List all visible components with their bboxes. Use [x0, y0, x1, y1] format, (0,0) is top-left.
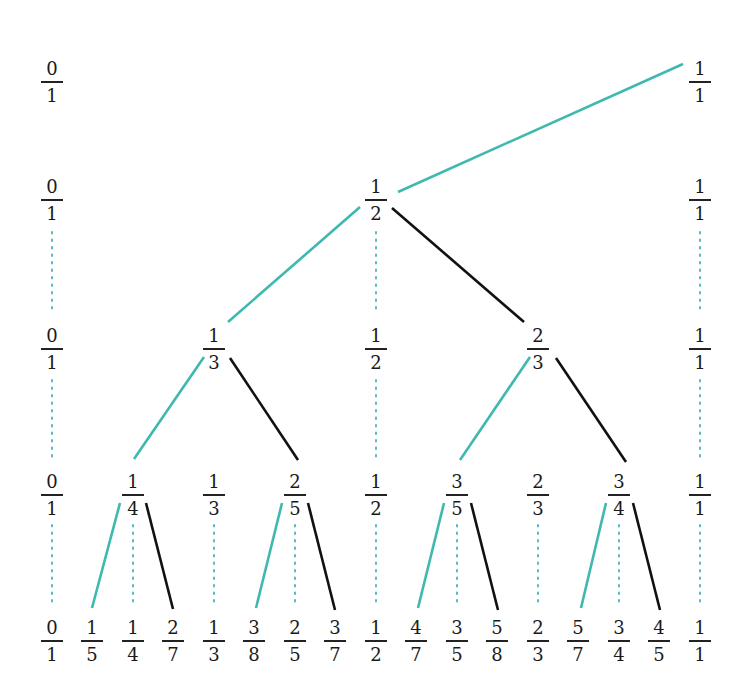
fraction-node: 11	[685, 619, 715, 664]
fraction-node: 14	[118, 473, 148, 518]
fraction-node: 38	[239, 619, 269, 664]
numerator: 1	[361, 327, 391, 348]
fraction-node: 37	[320, 619, 350, 664]
denominator: 5	[644, 642, 674, 664]
numerator: 4	[644, 619, 674, 640]
fraction-node: 13	[199, 327, 229, 372]
numerator: 0	[37, 60, 67, 81]
numerator: 1	[199, 327, 229, 348]
numerator: 1	[685, 178, 715, 199]
numerator: 2	[280, 619, 310, 640]
fraction-node: 25	[280, 619, 310, 664]
numerator: 4	[401, 619, 431, 640]
denominator: 7	[320, 642, 350, 664]
denominator: 4	[118, 496, 148, 518]
fraction-node: 01	[37, 60, 67, 105]
numerator: 3	[604, 619, 634, 640]
denominator: 3	[199, 642, 229, 664]
right-branch-edge	[146, 503, 173, 609]
numerator: 1	[118, 473, 148, 494]
denominator: 5	[280, 496, 310, 518]
numerator: 0	[37, 619, 67, 640]
left-branch-edge	[134, 357, 204, 459]
denominator: 3	[523, 496, 553, 518]
denominator: 3	[199, 496, 229, 518]
left-branch-edge	[418, 503, 444, 608]
fraction-node: 12	[361, 327, 391, 372]
fraction-node: 12	[361, 178, 391, 223]
numerator: 5	[563, 619, 593, 640]
numerator: 1	[361, 619, 391, 640]
denominator: 5	[442, 496, 472, 518]
denominator: 7	[563, 642, 593, 664]
denominator: 5	[442, 642, 472, 664]
denominator: 4	[604, 496, 634, 518]
denominator: 1	[37, 350, 67, 372]
denominator: 2	[361, 201, 391, 223]
numerator: 3	[320, 619, 350, 640]
denominator: 3	[523, 350, 553, 372]
denominator: 3	[199, 350, 229, 372]
right-branch-edge	[230, 358, 298, 460]
numerator: 0	[37, 178, 67, 199]
fraction-node: 34	[604, 473, 634, 518]
left-branch-edge	[92, 503, 120, 608]
right-branch-edge	[633, 503, 660, 610]
denominator: 1	[685, 496, 715, 518]
numerator: 1	[199, 619, 229, 640]
fraction-node: 23	[523, 619, 553, 664]
denominator: 1	[685, 350, 715, 372]
fraction-node: 23	[523, 327, 553, 372]
fraction-node: 11	[685, 60, 715, 105]
numerator: 0	[37, 473, 67, 494]
numerator: 1	[361, 473, 391, 494]
fraction-node: 25	[280, 473, 310, 518]
right-branch-edge	[471, 503, 498, 610]
denominator: 5	[77, 642, 107, 664]
denominator: 7	[158, 642, 188, 664]
numerator: 2	[523, 327, 553, 348]
denominator: 2	[361, 350, 391, 372]
denominator: 4	[604, 642, 634, 664]
fraction-node: 01	[37, 619, 67, 664]
numerator: 1	[685, 327, 715, 348]
numerator: 3	[604, 473, 634, 494]
fraction-node: 35	[442, 619, 472, 664]
fraction-node: 57	[563, 619, 593, 664]
numerator: 3	[442, 619, 472, 640]
left-branch-edge	[256, 503, 282, 608]
numerator: 1	[685, 473, 715, 494]
right-branch-edge	[392, 208, 524, 322]
numerator: 1	[77, 619, 107, 640]
fraction-node: 47	[401, 619, 431, 664]
fraction-node: 27	[158, 619, 188, 664]
denominator: 1	[37, 201, 67, 223]
numerator: 1	[361, 178, 391, 199]
fraction-node: 12	[361, 473, 391, 518]
numerator: 1	[685, 619, 715, 640]
numerator: 1	[118, 619, 148, 640]
numerator: 1	[199, 473, 229, 494]
denominator: 8	[239, 642, 269, 664]
denominator: 3	[523, 642, 553, 664]
denominator: 1	[37, 496, 67, 518]
fraction-node: 11	[685, 178, 715, 223]
numerator: 2	[523, 473, 553, 494]
fraction-node: 01	[37, 327, 67, 372]
left-branch-edge	[460, 357, 530, 460]
denominator: 1	[685, 83, 715, 105]
fraction-node: 15	[77, 619, 107, 664]
fraction-node: 13	[199, 473, 229, 518]
numerator: 3	[442, 473, 472, 494]
numerator: 1	[685, 60, 715, 81]
denominator: 5	[280, 642, 310, 664]
fraction-node: 13	[199, 619, 229, 664]
left-branch-edge	[228, 207, 360, 322]
fraction-node: 14	[118, 619, 148, 664]
fraction-node: 34	[604, 619, 634, 664]
stern-brocot-tree-diagram: 0111011211011312231101141325123523341101…	[0, 0, 747, 699]
fraction-node: 35	[442, 473, 472, 518]
denominator: 2	[361, 496, 391, 518]
denominator: 1	[37, 642, 67, 664]
numerator: 0	[37, 327, 67, 348]
